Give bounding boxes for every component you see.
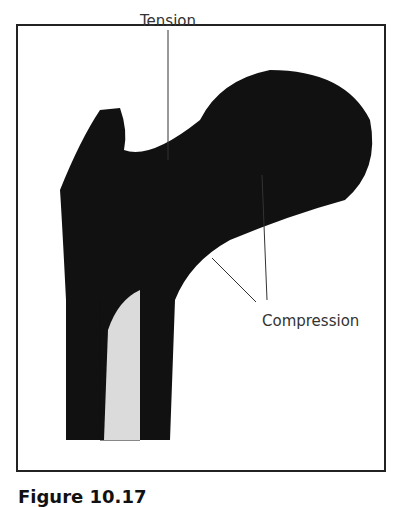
compression-label: Compression <box>262 312 359 330</box>
figure-caption: Figure 10.17 <box>18 486 146 507</box>
tension-label: Tension <box>140 12 196 30</box>
